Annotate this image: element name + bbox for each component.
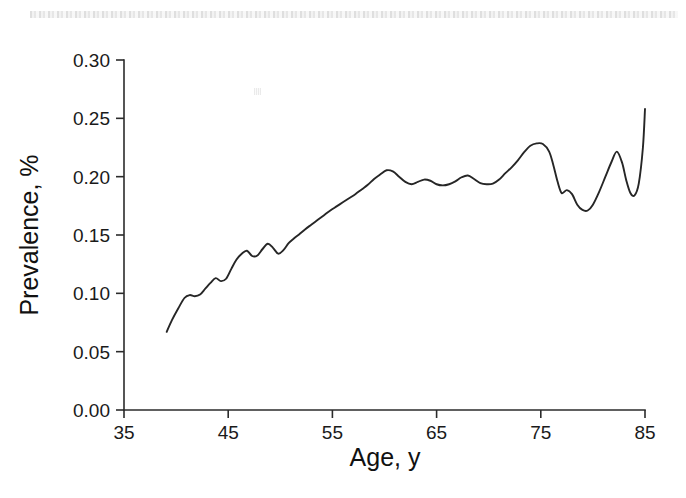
y-tick-label: 0.00 bbox=[73, 400, 110, 421]
x-tick-label: 55 bbox=[322, 422, 343, 443]
x-axis-title: Age, y bbox=[350, 443, 421, 471]
x-tick-label: 85 bbox=[634, 422, 655, 443]
y-tick-label: 0.15 bbox=[73, 225, 110, 246]
figure-page: 0.000.050.100.150.200.250.30 35455565758… bbox=[0, 0, 686, 498]
prevalence-curve bbox=[167, 109, 645, 332]
x-tick-label: 35 bbox=[113, 422, 134, 443]
x-tick-label: 45 bbox=[218, 422, 239, 443]
y-axis-ticks: 0.000.050.100.150.200.250.30 bbox=[73, 50, 124, 421]
x-axis-ticks: 354555657585 bbox=[113, 410, 655, 443]
y-tick-label: 0.05 bbox=[73, 342, 110, 363]
x-tick-label: 65 bbox=[426, 422, 447, 443]
y-tick-label: 0.30 bbox=[73, 50, 110, 71]
prevalence-by-age-line-chart: 0.000.050.100.150.200.250.30 35455565758… bbox=[0, 0, 686, 498]
y-tick-label: 0.20 bbox=[73, 167, 110, 188]
x-tick-label: 75 bbox=[530, 422, 551, 443]
y-axis-title: Prevalence, % bbox=[15, 154, 43, 315]
y-tick-label: 0.10 bbox=[73, 283, 110, 304]
y-tick-label: 0.25 bbox=[73, 108, 110, 129]
